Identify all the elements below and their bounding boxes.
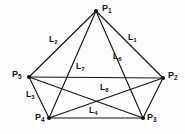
vertex-label-p3-text: P	[147, 112, 153, 122]
vertex-label-p4: P4	[35, 113, 44, 123]
edge-label-l7-subscript: 7	[81, 65, 84, 72]
graph-vertex-p3	[141, 116, 145, 120]
graph-vertex-p1	[94, 9, 98, 13]
vertex-label-p3-subscript: 3	[153, 116, 156, 123]
vertex-label-p4-text: P	[35, 112, 41, 122]
edge-label-l6: L6	[113, 52, 121, 62]
graph-vertex-p4	[47, 116, 51, 120]
graph-edge-l2	[29, 11, 96, 77]
edge-label-l1: L1	[128, 33, 136, 43]
vertex-label-p5: P5	[12, 70, 21, 80]
edge-label-l2: L2	[49, 35, 57, 45]
edge-label-l1-subscript: 1	[133, 36, 136, 43]
edge-label-l7: L7	[76, 62, 84, 72]
edge-label-l8-subscript: 8	[105, 86, 108, 93]
edge-label-l4-subscript: 4	[94, 109, 97, 116]
graph-edge-l1	[96, 11, 163, 78]
graph-edge-l6	[96, 11, 143, 118]
vertex-label-p2-text: P	[168, 70, 174, 80]
vertex-label-p1-text: P	[102, 3, 108, 13]
edge-label-l6-subscript: 6	[118, 55, 121, 62]
edge-label-l3: L3	[26, 90, 34, 100]
vertex-label-p4-subscript: 4	[41, 116, 44, 123]
edge-label-l4: L4	[89, 106, 97, 116]
graph-edge-l8	[29, 77, 163, 78]
graph-diagram: P1P2P3P4P5 L1L2L3L4L6L7L8	[0, 0, 185, 134]
vertex-label-p3: P3	[147, 113, 156, 123]
vertex-label-p5-text: P	[12, 69, 18, 79]
vertex-label-p2: P2	[168, 71, 177, 81]
vertex-label-p1-subscript: 1	[108, 7, 111, 14]
graph-vertex-p5	[27, 75, 31, 79]
vertex-label-p2-subscript: 2	[174, 74, 177, 81]
edge-label-l8: L8	[100, 83, 108, 93]
vertex-label-p1: P1	[102, 4, 111, 14]
graph-vertex-p2	[161, 76, 165, 80]
edge-layer	[29, 11, 163, 118]
edge-label-l3-subscript: 3	[31, 93, 34, 100]
edge-label-l2-subscript: 2	[54, 38, 57, 45]
vertex-label-p5-subscript: 5	[18, 73, 21, 80]
graph-edge-l7	[49, 11, 96, 118]
vertex-layer	[27, 9, 165, 120]
